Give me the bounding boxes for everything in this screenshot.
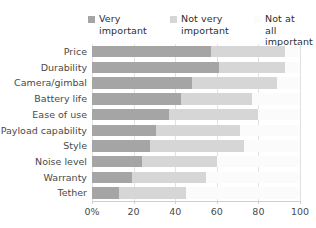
category-label-4: Ease of use [0,107,87,123]
bar-row [92,185,300,201]
x-tick-label-0: 0% [84,206,99,217]
bar-segment-0 [92,172,132,183]
stacked-bar [92,172,300,183]
bar-segment-2 [206,172,300,183]
category-label-1: Durability [0,60,87,76]
category-axis-labels: PriceDurabilityCamera/gimbalBattery life… [0,44,87,201]
legend-item-1: Not very important [170,13,229,36]
bar-segment-1 [142,156,217,167]
bar-segment-0 [92,125,156,136]
bar-row [92,60,300,76]
bar-segment-0 [92,93,181,104]
legend-label: Not at all important [265,13,314,48]
bar-segment-2 [240,125,300,136]
x-tick-label-40: 40 [169,206,181,217]
bar-row [92,154,300,170]
x-tick-40 [175,201,176,204]
stacked-bar [92,93,300,104]
x-axis-line [92,201,300,202]
bar-segment-2 [285,62,300,73]
x-tick-100 [300,201,301,204]
category-label-8: Warranty [0,170,87,186]
category-label-0: Price [0,44,87,60]
bar-segment-0 [92,77,192,88]
x-tick-label-80: 80 [252,206,264,217]
stacked-bar-chart: Very importantNot very importantNot at a… [0,0,316,228]
bar-segment-0 [92,109,169,120]
legend-swatch-icon [254,16,261,23]
x-tick-0 [92,201,93,204]
bar-segment-2 [258,109,300,120]
x-tick-label-100: 100 [291,206,309,217]
chart-legend: Very importantNot very importantNot at a… [88,13,314,43]
bar-segment-1 [119,187,186,198]
stacked-bar [92,109,300,120]
stacked-bar [92,62,300,73]
bar-segment-1 [219,62,286,73]
category-label-5: Payload capability [0,123,87,139]
bar-row [92,107,300,123]
bar-segment-0 [92,187,119,198]
legend-swatch-icon [88,16,95,23]
bar-segment-0 [92,140,150,151]
bar-segment-0 [92,62,219,73]
bar-rows [92,44,300,201]
stacked-bar [92,156,300,167]
bar-segment-1 [156,125,239,136]
stacked-bar [92,140,300,151]
bar-segment-0 [92,156,142,167]
bar-row [92,123,300,139]
bar-segment-1 [169,109,258,120]
bar-segment-2 [285,46,300,57]
bar-segment-2 [252,93,300,104]
bar-row [92,170,300,186]
legend-swatch-icon [170,16,177,23]
x-tick-20 [134,201,135,204]
bar-row [92,44,300,60]
bar-segment-2 [217,156,300,167]
bar-segment-2 [277,77,300,88]
stacked-bar [92,187,300,198]
stacked-bar [92,125,300,136]
x-tick-60 [217,201,218,204]
category-label-7: Noise level [0,154,87,170]
bar-segment-1 [181,93,252,104]
bar-segment-1 [132,172,207,183]
bar-segment-1 [211,46,286,57]
bar-segment-1 [150,140,244,151]
legend-item-2: Not at all important [254,13,314,48]
legend-item-0: Very important [88,13,147,36]
category-label-3: Battery life [0,91,87,107]
stacked-bar [92,46,300,57]
bar-segment-2 [244,140,300,151]
bar-segment-0 [92,46,211,57]
bar-row [92,91,300,107]
category-label-6: Style [0,138,87,154]
x-tick-label-20: 20 [128,206,140,217]
bar-row [92,75,300,91]
bar-row [92,138,300,154]
x-tick-label-60: 60 [211,206,223,217]
x-tick-80 [258,201,259,204]
stacked-bar [92,77,300,88]
gridline-100 [300,44,301,201]
bar-segment-1 [192,77,277,88]
bar-segment-2 [186,187,300,198]
category-label-2: Camera/gimbal [0,75,87,91]
plot-area [92,44,300,201]
legend-label: Not very important [181,13,229,36]
category-label-9: Tether [0,185,87,201]
legend-label: Very important [99,13,147,36]
